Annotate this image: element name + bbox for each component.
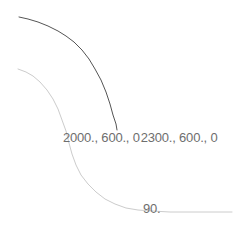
contour-series-group: [18, 17, 232, 212]
coordinate-label-point-b: 2300., 600., 0: [141, 131, 218, 144]
contour-canvas: [0, 0, 245, 235]
coordinate-label-group: 2000., 600., 0 2300., 600., 0: [63, 131, 217, 144]
coordinate-label-point-a: 2000., 600., 0: [63, 131, 140, 144]
cad-viewport[interactable]: 2000., 600., 0 2300., 600., 0 90.: [0, 0, 245, 235]
upper-contour-line: [19, 17, 117, 130]
isoline-value-label: 90.: [143, 202, 160, 215]
